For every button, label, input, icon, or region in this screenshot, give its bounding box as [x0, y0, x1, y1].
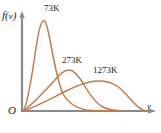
series-label-273k: 273K	[62, 56, 82, 65]
y-axis-label: f(v)	[2, 10, 16, 21]
origin-label: O	[8, 105, 16, 116]
x-axis-label: v	[147, 102, 151, 111]
curve-1273k	[23, 81, 148, 111]
chart-plot-area	[0, 0, 161, 133]
y-axis-arrowhead	[19, 11, 25, 18]
series-label-1273k: 1273K	[93, 66, 118, 75]
series-label-73k: 73K	[44, 4, 60, 13]
maxwell-boltzmann-distribution-chart: f(v) v O 73K 273K 1273K	[0, 0, 161, 133]
